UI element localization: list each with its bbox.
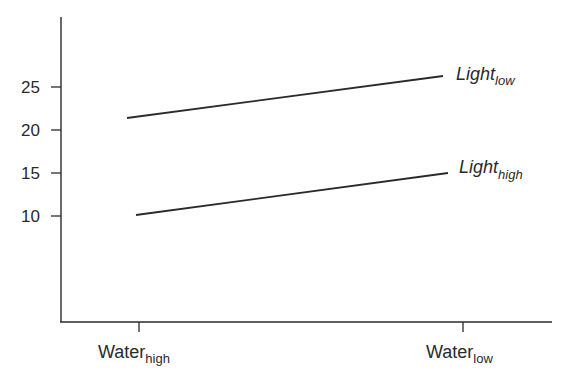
series-label-light-high: Lighthigh	[459, 157, 523, 182]
y-ticks: 25 20 15 10	[21, 78, 61, 226]
y-tick-label: 20	[21, 121, 40, 140]
y-tick-label: 10	[21, 207, 40, 226]
x-category-label-water-low: Waterlow	[426, 342, 493, 366]
x-ticks	[139, 322, 463, 332]
y-tick-label: 15	[21, 164, 40, 183]
series-label-light-low: Lightlow	[456, 64, 516, 88]
interaction-line-chart: 25 20 15 10 Waterhigh Waterlow Lightlow …	[0, 0, 568, 379]
y-tick-label: 25	[21, 78, 40, 97]
series-line-light-high	[136, 173, 448, 215]
series-line-light-low	[127, 76, 443, 118]
x-category-label-water-high: Waterhigh	[98, 342, 170, 366]
